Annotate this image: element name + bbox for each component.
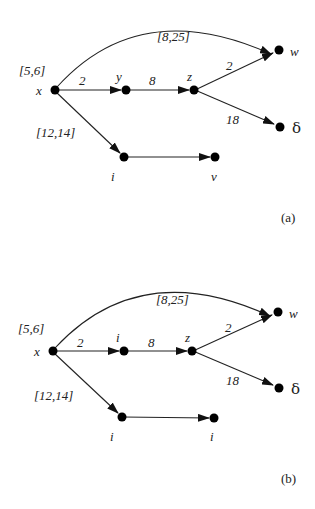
node-delta xyxy=(275,384,284,393)
label-w: w xyxy=(290,44,299,59)
edge-x-i2 xyxy=(54,353,118,413)
label-delta: δ xyxy=(291,380,300,398)
node-i2 xyxy=(118,413,127,422)
edge-label-z-w: 2 xyxy=(225,320,232,335)
node-v xyxy=(211,153,220,162)
node-delta xyxy=(276,123,285,132)
diagram-canvas: x [5,6] y z w δ i v [8,25] 2 8 2 18 [12,… xyxy=(0,0,315,509)
node-i xyxy=(120,347,129,356)
caption-b: (b) xyxy=(281,471,296,486)
caption-a: (a) xyxy=(281,210,295,225)
label-i: i xyxy=(116,330,120,345)
edge-label-x-i: [12,14] xyxy=(36,125,75,140)
edge-label-z-d: 18 xyxy=(226,373,240,388)
edge-z-w xyxy=(193,315,272,351)
label-i: i xyxy=(111,169,115,184)
label-x: x xyxy=(33,344,40,359)
edge-label-z-w: 2 xyxy=(226,58,233,73)
edge-label-i-z: 8 xyxy=(148,335,155,350)
label-z: z xyxy=(184,330,190,345)
label-x: x xyxy=(35,83,42,98)
label-delta: δ xyxy=(292,119,301,137)
label-y: y xyxy=(114,69,122,84)
node-w xyxy=(275,46,284,55)
edge-label-x-i: 2 xyxy=(77,335,84,350)
node-z xyxy=(188,347,197,356)
edge-label-x-w: [8,25] xyxy=(156,292,189,307)
edge-label-x-y: 2 xyxy=(79,73,86,88)
node-z xyxy=(190,86,199,95)
label-z: z xyxy=(186,69,192,84)
edge-z-w xyxy=(195,53,273,90)
label-i3: i xyxy=(210,429,214,444)
edge-label-x-w: [8,25] xyxy=(157,29,190,44)
edge-label-z-d: 18 xyxy=(226,112,240,127)
label-i2: i xyxy=(110,429,114,444)
node-i3 xyxy=(210,414,219,423)
label-v: v xyxy=(211,169,217,184)
node-w xyxy=(274,308,283,317)
node-x xyxy=(49,347,58,356)
label-interval-x: [5,6] xyxy=(18,321,44,336)
edge-i2-i3 xyxy=(123,417,209,418)
node-y xyxy=(122,86,131,95)
diagram-b: x [5,6] i z w δ i i [8,25] 2 8 2 18 [12,… xyxy=(18,292,300,486)
diagram-a: x [5,6] y z w δ i v [8,25] 2 8 2 18 [12,… xyxy=(19,29,301,225)
edge-label-x-i2: [12,14] xyxy=(34,388,73,403)
edge-label-y-z: 8 xyxy=(149,73,156,88)
node-x xyxy=(51,86,60,95)
label-w: w xyxy=(289,306,298,321)
node-i xyxy=(120,153,129,162)
label-interval-x: [5,6] xyxy=(19,63,45,78)
edge-x-i xyxy=(56,92,120,153)
